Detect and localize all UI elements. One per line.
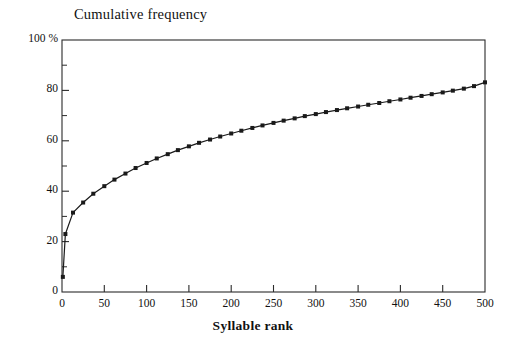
y-axis-tick-label: 80 xyxy=(12,82,58,94)
data-point-marker xyxy=(377,101,381,105)
data-point-marker xyxy=(145,161,149,165)
data-point-marker xyxy=(293,116,297,120)
data-point-marker xyxy=(102,184,106,188)
x-axis-tick-label: 450 xyxy=(423,297,463,309)
data-point-marker xyxy=(166,152,170,156)
data-point-marker xyxy=(451,89,455,93)
data-point-marker xyxy=(61,275,65,279)
chart-plot-area xyxy=(0,0,506,343)
data-point-marker xyxy=(335,108,339,112)
x-axis-tick-label: 300 xyxy=(296,297,336,309)
y-axis-tick-label: 20 xyxy=(12,234,58,246)
data-point-marker xyxy=(123,172,127,176)
data-point-marker xyxy=(420,94,424,98)
data-point-marker xyxy=(63,232,67,236)
data-point-marker xyxy=(229,131,233,135)
x-axis-tick-label: 400 xyxy=(380,297,420,309)
x-axis-label: Syllable rank xyxy=(0,318,506,334)
data-point-marker xyxy=(462,87,466,91)
data-point-marker xyxy=(387,99,391,103)
data-point-marker xyxy=(155,156,159,160)
data-point-marker xyxy=(272,121,276,125)
figure-container: Cumulative frequency Syllable rank 02040… xyxy=(0,0,506,343)
plot-frame xyxy=(62,40,485,292)
data-point-marker xyxy=(324,110,328,114)
data-point-marker xyxy=(261,123,265,127)
data-point-marker xyxy=(314,112,318,116)
data-point-marker xyxy=(472,84,476,88)
data-point-marker xyxy=(398,97,402,101)
data-point-marker xyxy=(409,96,413,100)
data-point-marker xyxy=(197,141,201,145)
series-line xyxy=(63,82,485,277)
data-point-marker xyxy=(303,114,307,118)
data-point-marker xyxy=(483,80,487,84)
x-axis-tick-label: 50 xyxy=(84,297,124,309)
data-point-marker xyxy=(250,126,254,130)
x-axis-tick-label: 100 xyxy=(127,297,167,309)
data-point-marker xyxy=(176,148,180,152)
data-point-marker xyxy=(366,103,370,107)
data-point-marker xyxy=(208,138,212,142)
data-point-marker xyxy=(218,135,222,139)
x-axis-tick-label: 200 xyxy=(211,297,251,309)
data-point-marker xyxy=(441,90,445,94)
data-point-marker xyxy=(239,129,243,133)
data-point-marker xyxy=(356,105,360,109)
x-axis-tick-label: 350 xyxy=(338,297,378,309)
y-axis-tick-label: 0 xyxy=(12,284,58,296)
x-axis-tick-label: 150 xyxy=(169,297,209,309)
y-axis-tick-label: 60 xyxy=(12,133,58,145)
data-point-marker xyxy=(282,119,286,123)
x-axis-tick-label: 0 xyxy=(42,297,82,309)
data-point-marker xyxy=(91,192,95,196)
x-axis-tick-label: 500 xyxy=(465,297,505,309)
data-point-marker xyxy=(81,201,85,205)
data-point-marker xyxy=(430,92,434,96)
data-point-marker xyxy=(187,144,191,148)
x-axis-tick-label: 250 xyxy=(254,297,294,309)
data-point-marker xyxy=(134,166,138,170)
data-point-marker xyxy=(112,178,116,182)
data-point-marker xyxy=(345,106,349,110)
y-axis-tick-label: 100 % xyxy=(2,32,58,44)
data-point-marker xyxy=(71,211,75,215)
y-axis-tick-label: 40 xyxy=(12,183,58,195)
